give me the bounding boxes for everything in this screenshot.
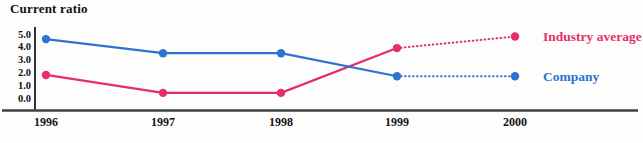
x-tick-label-2000: 2000 bbox=[503, 115, 527, 129]
y-tick-label-4.0: 4.0 bbox=[18, 41, 31, 52]
company-line-solid bbox=[46, 39, 397, 76]
y-tick-label-2.0: 2.0 bbox=[18, 67, 31, 78]
company-point-1996 bbox=[42, 35, 50, 43]
industry-average-point-1996 bbox=[42, 71, 50, 79]
chart-svg: 5.04.03.02.01.00.019961997199819992000In… bbox=[0, 0, 643, 143]
y-tick-label-0.0: 0.0 bbox=[18, 93, 31, 104]
x-tick-label-1999: 1999 bbox=[385, 115, 409, 129]
company-point-1999 bbox=[393, 72, 401, 80]
industry-average-line-solid bbox=[46, 48, 397, 93]
y-tick-label-1.0: 1.0 bbox=[18, 80, 31, 91]
x-tick-label-1996: 1996 bbox=[34, 115, 58, 129]
company-point-1998 bbox=[277, 49, 285, 57]
legend-label-company: Company bbox=[543, 69, 600, 84]
x-tick-label-1998: 1998 bbox=[269, 115, 293, 129]
industry-average-point-1999 bbox=[393, 44, 401, 52]
industry-average-line-dotted bbox=[397, 37, 515, 49]
company-point-1997 bbox=[159, 49, 167, 57]
y-tick-label-5.0: 5.0 bbox=[18, 29, 31, 40]
legend-label-industry-average: Industry average bbox=[543, 29, 642, 44]
industry-average-point-1997 bbox=[159, 89, 167, 97]
y-tick-label-3.0: 3.0 bbox=[18, 54, 31, 65]
x-tick-label-1997: 1997 bbox=[151, 115, 175, 129]
industry-average-point-2000 bbox=[511, 32, 519, 40]
company-point-2000 bbox=[511, 72, 519, 80]
industry-average-point-1998 bbox=[277, 89, 285, 97]
current-ratio-chart: Current ratio 5.04.03.02.01.00.019961997… bbox=[0, 0, 643, 143]
